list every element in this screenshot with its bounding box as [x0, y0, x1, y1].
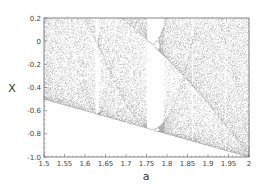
x-axis-ticks: 1.51.551.61.651.71.751.81.851.91.952: [38, 154, 251, 168]
x-tick-label: 2: [247, 160, 251, 168]
x-tick-label: 1.55: [57, 160, 73, 168]
x-axis-label: a: [143, 170, 150, 183]
x-tick-label: 1.9: [202, 160, 213, 168]
x-tick-label: 1.95: [221, 160, 237, 168]
y-tick-label: -0.6: [27, 107, 41, 115]
y-tick-label: -1.0: [27, 154, 41, 162]
scatter-points: [44, 18, 250, 157]
y-tick-label: -0.4: [27, 84, 41, 92]
x-tick-label: 1.65: [98, 160, 114, 168]
y-axis-label: X: [8, 82, 16, 95]
x-tick-label: 1.7: [120, 160, 131, 168]
y-tick-label: 0: [37, 38, 41, 46]
x-tick-label: 1.6: [79, 160, 91, 168]
x-tick-label: 1.8: [161, 160, 172, 168]
attractor-points: [44, 18, 250, 157]
y-tick-label: -0.8: [27, 130, 41, 138]
y-tick-label: -0.2: [27, 61, 41, 69]
x-tick-label: 1.75: [139, 160, 155, 168]
bifurcation-chart: 1.51.551.61.651.71.751.81.851.91.952 0.2…: [0, 0, 265, 184]
x-tick-label: 1.85: [180, 160, 196, 168]
y-tick-label: 0.2: [30, 15, 41, 23]
